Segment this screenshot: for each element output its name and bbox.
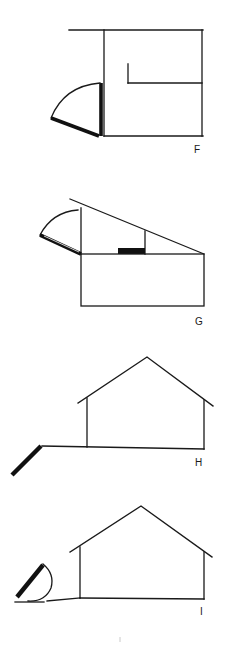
i-ground-line <box>80 598 204 599</box>
panel-label-g: G <box>195 317 203 327</box>
g-diagonal-wall <box>70 199 204 254</box>
g-door-open <box>40 235 81 254</box>
panel-label-h: H <box>195 458 202 468</box>
g-solid-block <box>118 248 145 254</box>
f-door-swing-arc <box>51 83 100 118</box>
h-plank <box>12 446 41 475</box>
i-connector-line <box>47 598 80 601</box>
panel-i <box>15 506 212 642</box>
g-lower-rect <box>81 254 204 306</box>
panel-h <box>12 357 213 475</box>
i-roof <box>70 506 212 557</box>
panel-g <box>40 199 204 306</box>
panel-f <box>51 30 203 136</box>
diagram-canvas <box>0 0 225 649</box>
g-door-highlight <box>44 236 79 252</box>
panel-label-i: I <box>200 607 203 617</box>
g-door-swing-arc <box>40 210 78 235</box>
h-ground-line <box>42 446 204 449</box>
panel-label-f: F <box>194 145 200 155</box>
i-rocker-bar <box>17 565 43 597</box>
h-roof <box>78 357 213 406</box>
f-door-open <box>51 118 99 136</box>
